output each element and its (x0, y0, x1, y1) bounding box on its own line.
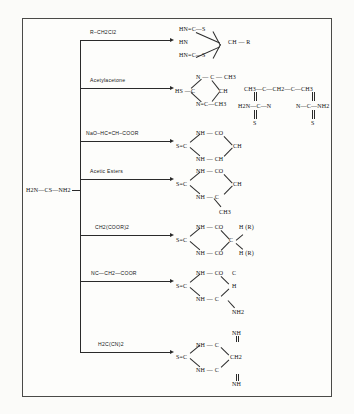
branch-2-side-mid-right: N—C—NH2 (296, 103, 329, 109)
branch-6-line-2: S=C (176, 283, 187, 289)
branch-3-line-3: CH (233, 143, 242, 149)
branch-6-arrow-line (80, 281, 172, 282)
branch-7-imine-bond-4 (238, 374, 239, 381)
branch-7-reagent-label: H2C(CN)2 (98, 342, 124, 347)
branch-4-arrow-line (80, 179, 172, 180)
branch-2-arrow-line (80, 88, 172, 89)
branch-6-reagent-label: NC—CH2—COOR (91, 271, 137, 276)
branch-1-line-3: CH — R (228, 39, 251, 45)
branch-4-line-1: NH — CO (196, 168, 223, 174)
branch-4-line-3: CH (233, 181, 242, 187)
branch-2-side-dbond-right-2 (314, 92, 315, 101)
branch-2-line-1: N — C — CH3 (196, 74, 236, 80)
branch-2-side-dbond-left-2 (256, 92, 257, 101)
branch-3-reagent-label: NaO–HC=CH–COOR (86, 131, 139, 136)
branch-3-arrowhead (170, 139, 174, 143)
branch-2-side-sulfur-right: S (311, 120, 315, 126)
branch-5-reagent-label: CH2(COOR)2 (95, 225, 129, 230)
branch-5-line-3: S=C (176, 237, 187, 243)
branch-1-arrowhead (170, 38, 174, 42)
branch-4-line-2: S=C (176, 181, 187, 187)
branch-7-arrowhead (170, 350, 174, 354)
branch-1-line-1: HN=C—S (179, 26, 206, 32)
branch-7-imine-bond-1 (236, 336, 237, 342)
branch-6-line-5: NH — C (196, 296, 219, 302)
branch-2-arrowhead (170, 86, 174, 90)
branch-3-line-4: NH — CH (196, 156, 223, 162)
substrate-label: H2N—CS—NH2 (26, 187, 71, 193)
branch-6-line-3: C (232, 270, 236, 276)
trunk-vertical-line (80, 40, 81, 352)
branch-7-arrow-line (80, 352, 172, 353)
branch-6-line-4: H (232, 283, 237, 289)
branch-2-side-cs-left-1 (254, 110, 255, 119)
branch-2-side-cs-right-2 (314, 110, 315, 119)
figure-border (22, 18, 332, 397)
branch-4-arrowhead (170, 177, 174, 181)
branch-2-side-dbond-left-1 (254, 92, 255, 101)
branch-7-line-3: S=C (176, 354, 187, 360)
substrate-stub-line (72, 190, 81, 191)
branch-7-line-4: CH2 (230, 354, 242, 360)
branch-7-imine-bond-3 (236, 374, 237, 381)
branch-5-line-1: NH — CO (196, 224, 223, 230)
branch-7-line-6: NH (232, 381, 241, 387)
branch-6-arrowhead (170, 279, 174, 283)
branch-5-arrowhead (170, 233, 174, 237)
branch-5-line-5: NH — CO (196, 250, 223, 256)
branch-3-line-1: NH — CO (196, 130, 223, 136)
branch-5-line-2: H (R) (239, 224, 254, 230)
branch-4-reagent-label: Acetic Esters (90, 169, 123, 174)
branch-7-imine-bond-2 (238, 336, 239, 342)
branch-2-side-cs-left-2 (256, 110, 257, 119)
branch-1-line-2: HN (179, 39, 188, 45)
branch-2-side-dbond-right-1 (312, 92, 313, 101)
branch-2-reagent-label: Acetylacetone (90, 78, 125, 83)
branch-1-arrow-line (80, 40, 172, 41)
branch-2-side-sulfur-left: S (253, 120, 257, 126)
branch-6-line-6: NH2 (232, 309, 244, 315)
branch-5-arrow-line (80, 235, 172, 236)
branch-5-line-6: H (R) (239, 250, 254, 256)
branch-2-side-mid-left: H2N—C—N (238, 103, 271, 109)
figure-sheet: H2N—CS—NH2 R–CH2Cl2 HN=C—S HN CH — R HN=… (0, 0, 354, 414)
branch-6-line-1: NH — CO (196, 270, 223, 276)
branch-3-line-2: S=C (176, 143, 187, 149)
branch-7-line-5: NH — C (196, 367, 219, 373)
branch-2-line-3: CH (219, 88, 228, 94)
branch-3-arrow-line (80, 141, 172, 142)
branch-2-side-cs-right-1 (312, 110, 313, 119)
branch-4-line-5: CH3 (219, 209, 231, 215)
branch-1-reagent-label: R–CH2Cl2 (90, 30, 116, 35)
